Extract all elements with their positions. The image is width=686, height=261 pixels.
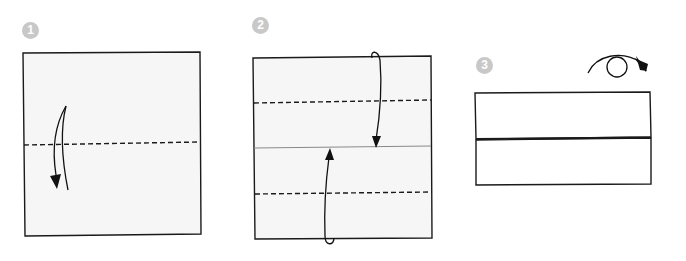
step-1-paper: [23, 52, 201, 236]
diagram-canvas: [0, 0, 686, 261]
step-3-turn-over-arrow-icon: [588, 55, 648, 77]
step-2-paper: [253, 52, 432, 244]
step-3-paper: [475, 92, 651, 185]
